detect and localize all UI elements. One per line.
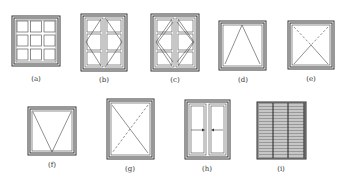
label-a: (a): [31, 75, 41, 83]
window-d-top-hung: [219, 21, 266, 70]
window-types-diagram: .o { fill: none; stroke: #333; stroke-wi…: [0, 0, 349, 182]
label-f: (f): [48, 161, 56, 169]
label-e: (e): [306, 75, 316, 83]
label-i: (i): [277, 165, 285, 173]
window-h-sliding: [185, 100, 230, 159]
window-g-pivot: [107, 99, 154, 159]
window-f-bottom-hung: [28, 107, 76, 155]
label-g: (g): [125, 165, 135, 173]
label-h: (h): [202, 165, 212, 173]
window-e-tilt-turn: [288, 21, 334, 69]
window-i-louver: [257, 102, 306, 159]
window-b-double-casement: [81, 14, 127, 71]
label-c: (c): [170, 76, 179, 84]
window-a-fixed-grid: [12, 16, 60, 66]
label-d: (d): [238, 76, 248, 84]
label-b: (b): [99, 76, 109, 84]
window-c-double-casement: [151, 14, 199, 71]
